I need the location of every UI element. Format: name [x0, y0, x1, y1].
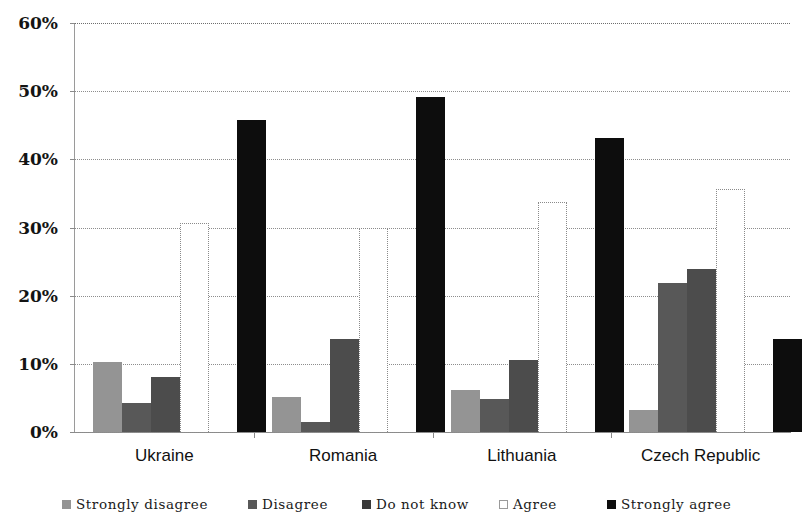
- legend-label: Strongly agree: [621, 496, 731, 512]
- legend-swatch-icon: [248, 500, 257, 509]
- bar-lithuania-disagree: [480, 399, 509, 432]
- plot-area: [75, 23, 790, 432]
- legend-label: Do not know: [376, 496, 469, 512]
- x-axis-category-czech-republic: Czech Republic: [611, 446, 790, 466]
- y-axis-tick: [70, 228, 75, 229]
- bar-romania-strongly-disagree: [272, 397, 301, 432]
- x-axis-category-romania: Romania: [254, 446, 433, 466]
- bar-lithuania-strongly-disagree: [451, 390, 480, 432]
- bar-ukraine-strongly-agree: [237, 120, 266, 432]
- bar-ukraine-strongly-disagree: [93, 362, 122, 432]
- legend-label: Agree: [513, 496, 557, 512]
- legend-swatch-icon: [62, 500, 71, 509]
- legend-label: Disagree: [262, 496, 328, 512]
- x-axis-group-tick: [254, 432, 255, 438]
- legend-swatch-icon: [607, 500, 616, 509]
- y-axis-tick-label: 0%: [0, 422, 58, 442]
- y-axis-tick: [70, 91, 75, 92]
- bar-czech-republic-agree: [716, 189, 745, 432]
- y-axis-tick: [70, 23, 75, 24]
- bar-romania-strongly-agree: [416, 97, 445, 432]
- legend-item-strongly-disagree[interactable]: Strongly disagree: [62, 496, 208, 512]
- legend-item-disagree[interactable]: Disagree: [248, 496, 328, 512]
- bar-lithuania-agree: [538, 202, 567, 432]
- x-axis-category-ukraine: Ukraine: [75, 446, 254, 466]
- legend-item-strongly-agree[interactable]: Strongly agree: [607, 496, 731, 512]
- bar-ukraine-disagree: [122, 403, 151, 432]
- y-axis-tick-label: 50%: [0, 81, 58, 101]
- legend-swatch-icon: [499, 500, 508, 509]
- y-axis-tick: [70, 432, 75, 433]
- bar-ukraine-agree: [180, 223, 209, 432]
- x-axis-group-tick: [611, 432, 612, 438]
- legend-label: Strongly disagree: [76, 496, 208, 512]
- y-axis-tick-label: 60%: [0, 13, 58, 33]
- legend-swatch-icon: [362, 500, 371, 509]
- bar-romania-agree: [359, 228, 388, 433]
- chart-legend: Strongly disagreeDisagreeDo not knowAgre…: [62, 492, 803, 516]
- bar-romania-disagree: [301, 422, 330, 432]
- gridline: [75, 23, 790, 24]
- y-axis-tick: [70, 159, 75, 160]
- x-axis-category-lithuania: Lithuania: [433, 446, 612, 466]
- y-axis-tick: [70, 296, 75, 297]
- gridline: [75, 91, 790, 92]
- y-axis-tick-label: 10%: [0, 354, 58, 374]
- bar-czech-republic-strongly-agree: [773, 339, 802, 432]
- legend-item-agree[interactable]: Agree: [499, 496, 557, 512]
- bar-ukraine-do-not-know: [151, 377, 180, 432]
- y-axis-tick-label: 30%: [0, 218, 58, 238]
- x-axis-group-tick: [433, 432, 434, 438]
- bar-lithuania-strongly-agree: [595, 138, 624, 432]
- legend-item-do-not-know[interactable]: Do not know: [362, 496, 469, 512]
- bar-romania-do-not-know: [330, 339, 359, 432]
- y-axis-tick: [70, 364, 75, 365]
- bar-czech-republic-disagree: [658, 283, 687, 432]
- bar-lithuania-do-not-know: [509, 360, 538, 432]
- bar-czech-republic-do-not-know: [687, 269, 716, 432]
- bar-czech-republic-strongly-disagree: [629, 410, 658, 432]
- y-axis-tick-label: 40%: [0, 149, 58, 169]
- y-axis-tick-label: 20%: [0, 286, 58, 306]
- bar-chart: 0%10%20%30%40%50%60% UkraineRomaniaLithu…: [0, 0, 803, 520]
